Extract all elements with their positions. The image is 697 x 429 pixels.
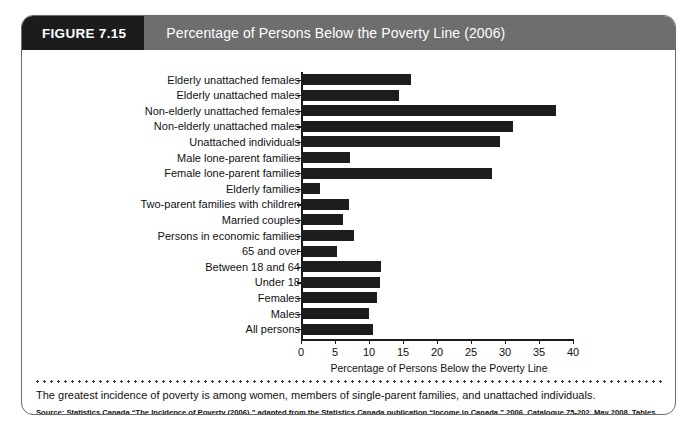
- figure-container: FIGURE 7.15 Percentage of Persons Below …: [21, 15, 676, 415]
- category-axis-labels: Elderly unattached femalesElderly unatta…: [62, 50, 300, 370]
- category-label: 65 and over: [242, 245, 300, 257]
- y-axis-tick: [297, 80, 301, 81]
- category-label: All persons: [246, 323, 300, 335]
- y-axis-tick: [297, 111, 301, 112]
- x-axis-tick-label: 10: [354, 346, 384, 358]
- bar: [302, 136, 500, 147]
- y-axis-tick: [297, 298, 301, 299]
- y-axis-tick: [297, 267, 301, 268]
- x-axis-tick-label: 25: [456, 346, 486, 358]
- x-axis-tick: [505, 339, 506, 344]
- bar: [302, 105, 556, 116]
- x-axis-tick-label: 40: [558, 346, 588, 358]
- y-axis-tick: [297, 329, 301, 330]
- category-label: Male lone-parent families: [177, 152, 300, 164]
- bar: [302, 183, 320, 194]
- category-label: Elderly unattached males: [176, 89, 300, 101]
- dotted-divider: [34, 380, 664, 383]
- bar: [302, 168, 492, 179]
- figure-number-badge: FIGURE 7.15: [22, 16, 144, 50]
- category-label: Under 18: [255, 276, 300, 288]
- bar: [302, 214, 343, 225]
- category-label: Female lone-parent families: [164, 167, 300, 179]
- category-label: Unattached individuals: [189, 136, 300, 148]
- y-axis-tick: [297, 236, 301, 237]
- category-label: Married couples: [222, 214, 300, 226]
- bar: [302, 90, 399, 101]
- x-axis-tick: [471, 339, 472, 344]
- y-axis-tick: [297, 220, 301, 221]
- chart-plot-area: Elderly unattached femalesElderly unatta…: [22, 50, 675, 370]
- y-axis-tick: [297, 95, 301, 96]
- x-axis-tick-label: 20: [422, 346, 452, 358]
- bar: [302, 324, 373, 335]
- y-axis-tick: [297, 189, 301, 190]
- category-label: Between 18 and 64: [205, 261, 300, 273]
- y-axis-tick: [297, 173, 301, 174]
- y-axis-tick: [297, 282, 301, 283]
- y-axis-tick: [297, 204, 301, 205]
- x-axis-tick: [539, 339, 540, 344]
- category-label: Non-elderly unattached males: [154, 120, 300, 132]
- category-label: Persons in economic families: [158, 230, 300, 242]
- bar: [302, 199, 349, 210]
- x-axis-tick: [301, 339, 302, 344]
- x-axis-tick-label: 30: [490, 346, 520, 358]
- x-axis-title: Percentage of Persons Below the Poverty …: [249, 362, 629, 374]
- figure-source-note: Source: Statistics Canada “The Incidence…: [36, 408, 664, 415]
- bar: [302, 230, 354, 241]
- figure-caption: The greatest incidence of poverty is amo…: [36, 388, 661, 402]
- bar: [302, 121, 513, 132]
- bar: [302, 261, 381, 272]
- y-axis-tick: [297, 251, 301, 252]
- category-label: Males: [271, 308, 300, 320]
- x-axis-tick: [335, 339, 336, 344]
- bar: [302, 292, 377, 303]
- category-label: Two-parent families with children: [140, 198, 300, 210]
- y-axis-tick: [297, 158, 301, 159]
- x-axis-tick-label: 0: [286, 346, 316, 358]
- x-axis-tick-label: 5: [320, 346, 350, 358]
- bar: [302, 152, 350, 163]
- x-axis-tick-label: 15: [388, 346, 418, 358]
- category-label: Non-elderly unattached females: [145, 105, 300, 117]
- y-axis-tick: [297, 314, 301, 315]
- bar: [302, 277, 380, 288]
- figure-header: FIGURE 7.15 Percentage of Persons Below …: [22, 16, 675, 50]
- x-axis-tick-label: 35: [524, 346, 554, 358]
- category-label: Elderly families: [226, 183, 300, 195]
- bar: [302, 308, 369, 319]
- bar-plot: Percentage of Persons Below the Poverty …: [301, 50, 601, 370]
- figure-title: Percentage of Persons Below the Poverty …: [144, 16, 505, 50]
- x-axis-tick: [437, 339, 438, 344]
- x-axis-tick: [573, 339, 574, 344]
- bar: [302, 74, 411, 85]
- y-axis-tick: [297, 126, 301, 127]
- category-label: Elderly unattached females: [167, 74, 300, 86]
- category-label: Females: [258, 292, 300, 304]
- bar: [302, 246, 337, 257]
- y-axis-tick: [297, 142, 301, 143]
- x-axis-tick: [369, 339, 370, 344]
- x-axis-tick: [403, 339, 404, 344]
